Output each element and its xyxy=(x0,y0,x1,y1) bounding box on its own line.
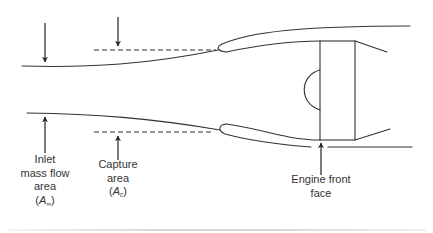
spinner xyxy=(304,70,320,110)
bottom-rule xyxy=(8,229,426,231)
label-line: Inlet xyxy=(21,153,70,167)
label-capture-area: Capture area (Ac) xyxy=(98,158,137,202)
label-line: area xyxy=(21,180,70,194)
label-inlet-mass-flow-area: Inlet mass flow area (A∞) xyxy=(21,153,70,210)
engine-face-box xyxy=(320,41,355,140)
label-line: mass flow xyxy=(21,167,70,181)
lower-cowl-lip xyxy=(220,124,311,147)
label-line: area xyxy=(98,172,137,186)
label-line: Engine front xyxy=(291,173,350,187)
label-symbol: (A∞) xyxy=(21,194,70,211)
label-line: face xyxy=(291,187,350,201)
upper-cowl-inner xyxy=(226,41,320,52)
upper-streamline xyxy=(22,50,218,66)
lower-streamline xyxy=(27,113,220,130)
label-line: Capture xyxy=(98,158,137,172)
upper-exit-line xyxy=(355,41,387,52)
label-symbol: (Ac) xyxy=(98,185,137,202)
lower-exit-line xyxy=(355,129,390,140)
label-engine-front-face: Engine front face xyxy=(291,173,350,200)
